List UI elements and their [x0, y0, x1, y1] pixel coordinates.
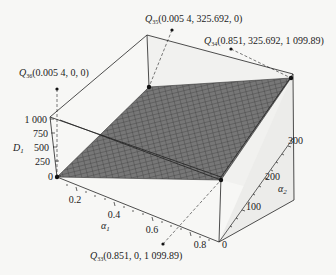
x-tick-0.8: 0.8: [194, 239, 207, 250]
q33-label: Q33(0.851, 0, 1 099.89): [90, 250, 182, 262]
y-tick-300: 300: [288, 135, 303, 146]
z-tick-1000: 1 000: [25, 114, 48, 125]
q36-label: Q36(0.005 4, 0, 0): [19, 67, 89, 79]
y-tick-0: 0: [222, 239, 227, 250]
surface-plot-3d: 1 000 750 500 250 0 D1 0.2 0.4 0.6: [0, 0, 336, 275]
x-tick-0.2: 0.2: [69, 194, 82, 205]
z-tick-0: 0: [48, 171, 53, 182]
x-tick-0.6: 0.6: [146, 224, 159, 235]
z-tick-500: 500: [34, 142, 49, 153]
y-tick-100: 100: [246, 201, 261, 212]
x-tick-0.4: 0.4: [108, 209, 121, 220]
z-axis-label: D1: [12, 142, 24, 155]
z-tick-250: 250: [35, 156, 50, 167]
q35-label: Q35(0.005 4, 325.692, 0): [145, 13, 242, 25]
q34-label: Q34(0.851, 325.692, 1 099.89): [204, 35, 324, 47]
x-axis-label: α1: [101, 220, 110, 233]
y-tick-200: 200: [265, 171, 280, 182]
z-tick-750: 750: [33, 128, 48, 139]
